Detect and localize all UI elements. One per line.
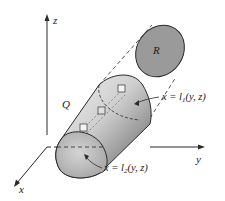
upper-surface-label: x = l1(y, z)	[161, 91, 206, 104]
y-axis-label: y	[195, 153, 201, 165]
diagram-canvas: z y x R Q	[0, 0, 225, 201]
z-axis-label: z	[52, 14, 58, 26]
x-axis-label: x	[18, 183, 24, 195]
region-r	[126, 16, 195, 87]
solid-q-label: Q	[62, 98, 70, 110]
region-r-label: R	[152, 44, 160, 56]
lower-surface-label: x = l2(y, z)	[103, 162, 148, 175]
x-axis	[14, 147, 47, 187]
z-axis	[45, 14, 50, 135]
